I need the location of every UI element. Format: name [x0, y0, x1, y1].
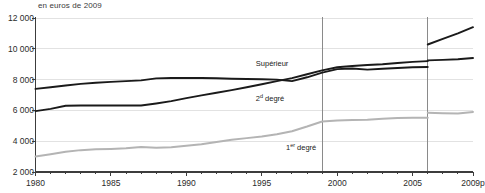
- series-label-superieur: Supérieur: [256, 59, 289, 68]
- x-axis-ticks: [36, 172, 474, 176]
- series-label-second-degre: 2d degré: [256, 94, 285, 103]
- series-lines: [36, 27, 474, 156]
- break-reference-lines: [322, 17, 428, 172]
- series-label-premier-degre: 1er degré: [286, 143, 316, 152]
